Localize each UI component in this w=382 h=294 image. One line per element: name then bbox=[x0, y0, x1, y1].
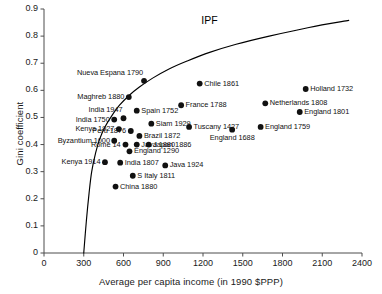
data-point-marker bbox=[126, 94, 132, 100]
data-point-marker bbox=[102, 159, 108, 165]
data-point-marker bbox=[123, 142, 129, 148]
data-point-label: England 1290 bbox=[134, 147, 179, 154]
data-point-label: England 1801 bbox=[304, 108, 349, 115]
data-point-label: England 1759 bbox=[265, 123, 310, 130]
x-tick-label-2400: 2400 bbox=[342, 258, 382, 268]
data-point-marker bbox=[137, 133, 143, 139]
data-point-marker bbox=[162, 163, 168, 169]
x-tick-label-900: 900 bbox=[143, 258, 183, 268]
x-tick-label-600: 600 bbox=[104, 258, 144, 268]
x-axis-title: Average per capita income (in 1990 $PPP) bbox=[0, 276, 382, 287]
data-point-label: India 1807 bbox=[125, 159, 159, 166]
data-point-label: Rome 14 bbox=[91, 141, 121, 148]
data-point-marker bbox=[148, 121, 154, 127]
data-point-label: Netherlands 1808 bbox=[270, 99, 328, 106]
data-point-label: Spain 1752 bbox=[141, 107, 178, 114]
data-point-marker bbox=[121, 115, 127, 121]
data-point-marker bbox=[127, 148, 133, 154]
data-point-label: Maghreb 1880 bbox=[77, 93, 124, 100]
data-point-marker bbox=[128, 128, 134, 134]
y-axis-title: Gini coefficient bbox=[14, 59, 25, 209]
data-point-marker bbox=[197, 81, 203, 87]
data-point-label: Nueva Espana 1790 bbox=[77, 69, 143, 76]
data-point-label: Peru 1876 bbox=[92, 127, 126, 134]
data-point-label: India 1947 bbox=[89, 106, 123, 113]
data-point-label: Brazil 1872 bbox=[144, 132, 180, 139]
data-point-label: China 1880 bbox=[120, 183, 157, 190]
y-tick-label-0: 0 bbox=[10, 247, 38, 257]
data-point-marker bbox=[141, 78, 147, 84]
data-point-marker bbox=[113, 184, 119, 190]
data-point-marker bbox=[130, 173, 136, 179]
x-tick-label-0: 0 bbox=[24, 258, 64, 268]
data-point-marker bbox=[297, 109, 303, 115]
scatter-chart-figure: 030060090012001500180021002400 00.10.20.… bbox=[0, 0, 382, 294]
data-point-marker bbox=[262, 100, 268, 106]
data-point-label: Tuscany 1427 bbox=[194, 123, 240, 130]
data-point-label: Kenya 1914 bbox=[62, 158, 101, 165]
data-point-marker bbox=[117, 160, 123, 166]
data-point-marker bbox=[258, 124, 264, 130]
data-point-marker bbox=[134, 108, 140, 114]
x-tick-label-1500: 1500 bbox=[223, 258, 263, 268]
x-tick-label-1800: 1800 bbox=[263, 258, 303, 268]
x-tick-label-2100: 2100 bbox=[302, 258, 342, 268]
data-point-label: Java 1924 bbox=[170, 161, 204, 168]
data-point-marker bbox=[303, 86, 309, 92]
data-point-label: India 1750 bbox=[76, 116, 110, 123]
x-tick-label-1200: 1200 bbox=[183, 258, 223, 268]
data-point-label: Holland 1732 bbox=[310, 85, 353, 92]
data-point-marker bbox=[178, 102, 184, 108]
y-tick-label-0-8: 0.8 bbox=[10, 30, 38, 40]
ipf-curve-label: IPF bbox=[201, 14, 217, 26]
data-point-label: Chile 1861 bbox=[204, 80, 239, 87]
data-point-marker bbox=[111, 117, 117, 123]
data-point-label: Siam 1929 bbox=[156, 120, 191, 127]
data-point-label: France 1788 bbox=[186, 101, 227, 108]
data-point-label: England 1688 bbox=[210, 134, 255, 141]
x-tick-label-300: 300 bbox=[64, 258, 104, 268]
data-point-markers bbox=[102, 78, 309, 190]
y-tick-label-0-1: 0.1 bbox=[10, 220, 38, 230]
y-tick-label-0-9: 0.9 bbox=[10, 3, 38, 13]
data-point-label: S Italy 1811 bbox=[137, 172, 175, 179]
